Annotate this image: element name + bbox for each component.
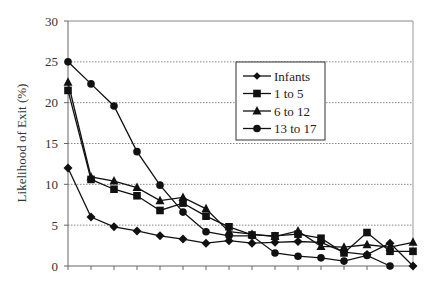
- circle-marker: [294, 252, 302, 260]
- y-tick-label: 10: [45, 177, 58, 192]
- circle-marker: [248, 232, 256, 240]
- square-marker: [133, 192, 141, 200]
- triangle-marker: [294, 226, 303, 235]
- diamond-marker: [179, 235, 188, 244]
- circle-marker: [110, 102, 118, 110]
- circle-marker: [253, 125, 261, 133]
- square-marker: [202, 212, 210, 220]
- diamond-marker: [156, 231, 165, 240]
- y-axis-ticks: 051015202530: [45, 14, 68, 274]
- legend-label: 6 to 12: [274, 104, 310, 119]
- diamond-marker: [294, 237, 303, 246]
- square-marker: [317, 234, 325, 242]
- circle-marker: [340, 257, 348, 265]
- triangle-marker: [409, 237, 418, 246]
- diamond-marker: [87, 213, 96, 222]
- legend-label: Infants: [274, 69, 310, 84]
- circle-marker: [87, 80, 95, 88]
- circle-marker: [179, 208, 187, 216]
- circle-marker: [156, 181, 164, 189]
- diamond-marker: [202, 239, 211, 248]
- legend: Infants1 to 56 to 1213 to 17: [236, 62, 325, 140]
- diamond-marker: [133, 226, 142, 235]
- series-13-to-17: [64, 58, 394, 270]
- diamond-marker: [248, 239, 257, 248]
- triangle-marker: [202, 204, 211, 213]
- circle-marker: [317, 254, 325, 262]
- square-marker: [110, 185, 118, 193]
- diamond-marker: [110, 222, 119, 231]
- legend-label: 1 to 5: [274, 86, 304, 101]
- y-tick-label: 20: [45, 95, 58, 110]
- circle-marker: [133, 148, 141, 156]
- triangle-marker: [179, 192, 188, 201]
- triangle-marker: [64, 77, 73, 86]
- circle-marker: [386, 262, 394, 270]
- square-marker: [253, 90, 261, 98]
- circle-marker: [363, 252, 371, 260]
- diamond-marker: [64, 164, 73, 173]
- y-tick-label: 30: [45, 14, 58, 29]
- triangle-marker: [363, 240, 372, 249]
- y-tick-label: 5: [52, 218, 59, 233]
- circle-marker: [202, 228, 210, 236]
- y-tick-label: 25: [45, 54, 58, 69]
- square-marker: [156, 207, 164, 215]
- y-axis-label: Likelihood of Exit (%): [14, 84, 29, 203]
- square-marker: [363, 229, 371, 237]
- legend-label: 13 to 17: [274, 121, 317, 136]
- circle-marker: [225, 232, 233, 240]
- square-marker: [409, 248, 417, 256]
- line-chart: 051015202530 Likelihood of Exit (%) Infa…: [0, 0, 429, 291]
- y-tick-label: 15: [45, 136, 58, 151]
- circle-marker: [271, 249, 279, 257]
- circle-marker: [64, 58, 72, 66]
- y-tick-label: 0: [52, 259, 59, 274]
